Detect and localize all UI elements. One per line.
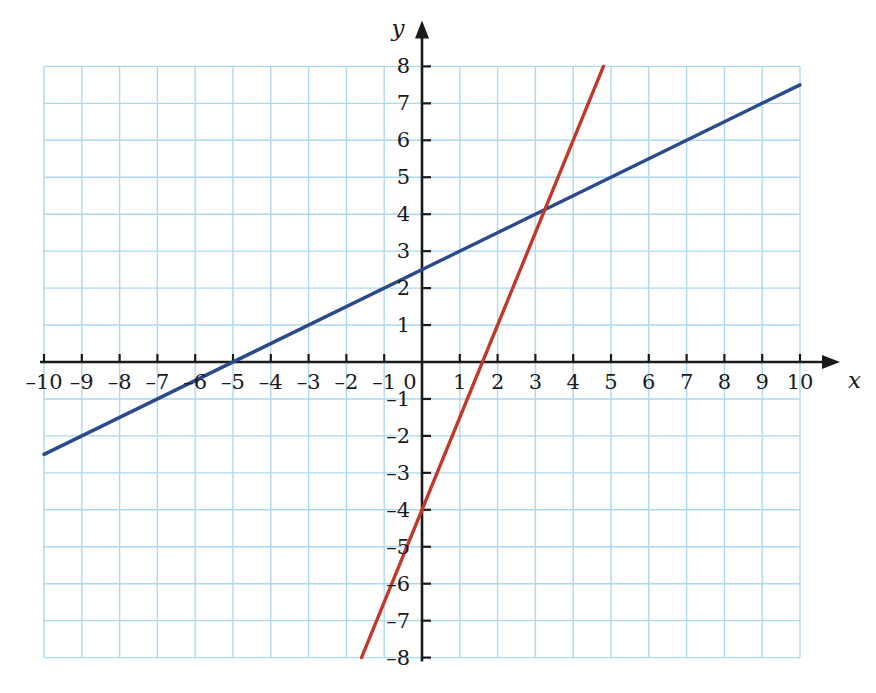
y-tick-label: –2	[386, 424, 410, 448]
y-tick-label: 4	[397, 202, 410, 226]
y-tick-label: 1	[397, 313, 410, 337]
y-tick-label: –7	[386, 609, 410, 633]
y-tick-label: 2	[397, 276, 410, 300]
x-tick-label: 6	[642, 370, 655, 394]
x-tick-label: 1	[453, 370, 466, 394]
x-axis-label: x	[848, 367, 861, 393]
x-tick-label: –3	[297, 370, 321, 394]
x-tick-label: 9	[756, 370, 769, 394]
y-axis-label: y	[391, 15, 406, 41]
x-tick-label: 10	[787, 370, 814, 394]
coordinate-plane-figure: –10–9–8–7–6–5–4–3–2–11234567891087654321…	[0, 0, 876, 693]
graph-canvas: –10–9–8–7–6–5–4–3–2–11234567891087654321…	[0, 0, 876, 693]
x-axis-arrowhead	[822, 355, 840, 369]
y-tick-label: 3	[397, 239, 410, 263]
y-tick-label: –6	[386, 572, 410, 596]
y-tick-label: 7	[397, 91, 410, 115]
y-axis-arrowhead	[415, 20, 429, 38]
y-tick-label: –5	[386, 535, 410, 559]
x-tick-label: 7	[680, 370, 693, 394]
x-tick-label: –8	[108, 370, 132, 394]
x-tick-label: –5	[221, 370, 245, 394]
x-tick-label: –9	[70, 370, 94, 394]
y-tick-label: 8	[397, 54, 410, 78]
x-tick-label: –4	[259, 370, 283, 394]
x-tick-label: 8	[718, 370, 731, 394]
y-tick-label: 6	[397, 128, 410, 152]
y-tick-label: –8	[386, 646, 410, 670]
x-tick-label: –10	[25, 370, 62, 394]
x-tick-label: 3	[529, 370, 542, 394]
y-tick-label: 5	[397, 165, 410, 189]
x-tick-label: –7	[145, 370, 169, 394]
x-tick-label: –2	[334, 370, 358, 394]
labels-layer: –10–9–8–7–6–5–4–3–2–11234567891087654321…	[25, 15, 861, 669]
x-tick-label: 2	[491, 370, 504, 394]
axes-layer	[40, 20, 840, 661]
y-tick-label: –4	[386, 498, 410, 522]
x-tick-label: 4	[567, 370, 580, 394]
origin-label: 0	[403, 370, 416, 394]
y-tick-label: –3	[386, 461, 410, 485]
x-tick-label: –6	[183, 370, 207, 394]
x-tick-label: 5	[604, 370, 617, 394]
